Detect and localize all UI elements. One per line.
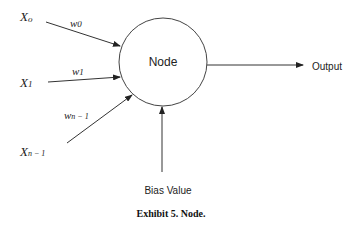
neuron-node-diagram: Node Xo w0 X1 w1 Xn − 1 wn − 1 Output bbox=[0, 0, 363, 226]
input-n-minus-1-weight: wn − 1 bbox=[64, 109, 89, 121]
output: Output bbox=[207, 61, 342, 72]
input-0-arrow bbox=[46, 22, 120, 46]
bias-label: Bias Value bbox=[144, 185, 192, 196]
node: Node bbox=[119, 18, 207, 106]
bias: Bias Value bbox=[144, 107, 192, 196]
output-label: Output bbox=[312, 61, 342, 72]
input-1-variable: X1 bbox=[19, 75, 32, 90]
input-n-minus-1: Xn − 1 wn − 1 bbox=[19, 95, 132, 159]
input-1-weight: w1 bbox=[72, 65, 84, 77]
input-n-minus-1-variable: Xn − 1 bbox=[19, 144, 45, 159]
input-0: Xo w0 bbox=[19, 9, 120, 46]
figure-caption: Exhibit 5. Node. bbox=[137, 208, 206, 219]
input-1: X1 w1 bbox=[19, 65, 120, 90]
input-0-weight: w0 bbox=[70, 17, 82, 29]
input-1-arrow bbox=[48, 77, 120, 82]
input-0-variable: Xo bbox=[19, 9, 33, 24]
node-label: Node bbox=[149, 55, 178, 69]
